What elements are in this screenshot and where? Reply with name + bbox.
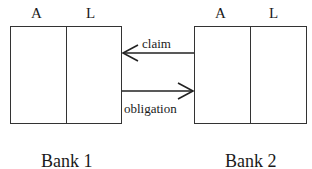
obligation-label: obligation xyxy=(124,102,177,115)
obligation-arrow-icon xyxy=(122,83,193,99)
arrows-layer xyxy=(0,0,312,169)
claim-label: claim xyxy=(142,37,171,50)
